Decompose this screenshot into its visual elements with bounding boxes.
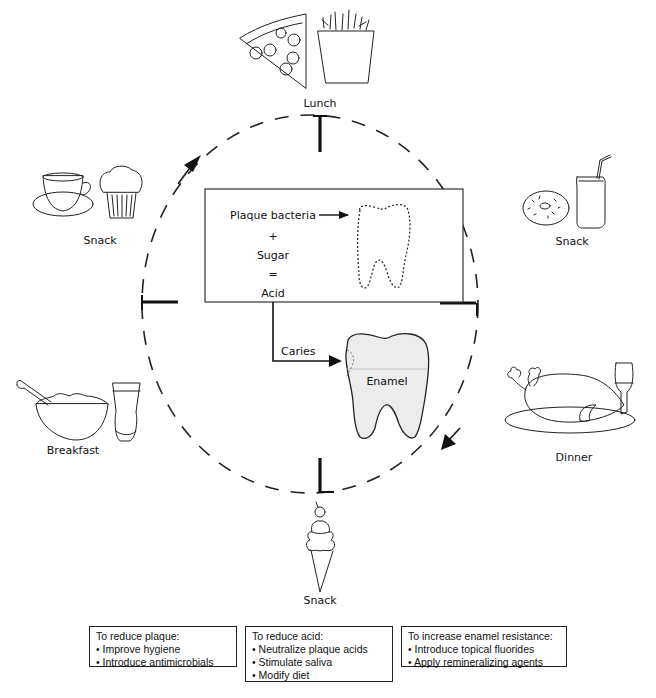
cereal-bowl-icon xyxy=(17,381,108,440)
reduce-plaque-box: To reduce plaque: Improve hygiene Introd… xyxy=(89,626,237,667)
muffin-icon xyxy=(100,166,142,218)
soda-can-icon xyxy=(577,155,611,228)
reduce-acid-box: To reduce acid: Neutralize plaque acids … xyxy=(245,626,393,682)
pizza-slice-icon xyxy=(240,14,306,88)
ice-cream-cone-icon xyxy=(306,502,334,592)
caries-arrowhead xyxy=(329,355,342,367)
wine-glass-icon xyxy=(615,363,633,414)
caries-diagram: Plaque bacteria + Sugar = Acid Caries En… xyxy=(0,0,656,698)
increase-enamel-resistance-box: To increase enamel resistance: Introduce… xyxy=(401,626,567,667)
reduce-plaque-title: To reduce plaque: xyxy=(96,630,230,643)
reduce-plaque-item: Introduce antimicrobials xyxy=(96,656,230,669)
increase-enamel-item: Introduce topical fluorides xyxy=(408,643,560,656)
reduce-plaque-item: Improve hygiene xyxy=(96,643,230,656)
reduce-acid-item: Modify diet xyxy=(252,669,386,682)
increase-enamel-item: Apply remineralizing agents xyxy=(408,656,560,669)
reduce-acid-item: Stimulate saliva xyxy=(252,656,386,669)
tick-bottom xyxy=(320,458,334,493)
meal-label-breakfast: Breakfast xyxy=(47,444,100,457)
tick-left xyxy=(142,295,178,310)
donut-icon xyxy=(523,191,569,225)
coffee-cup-icon xyxy=(33,173,93,216)
meal-label-lunch: Lunch xyxy=(304,97,337,110)
meal-label-snack-evening: Snack xyxy=(303,594,337,607)
meal-label-dinner: Dinner xyxy=(556,451,593,464)
tick-lunch xyxy=(313,115,327,152)
reduce-acid-item: Neutralize plaque acids xyxy=(252,643,386,656)
increase-enamel-title: To increase enamel resistance: xyxy=(408,630,560,643)
meal-label-snack-morning: Snack xyxy=(83,234,117,247)
juice-glass-icon xyxy=(113,383,140,441)
equation-sugar: Sugar xyxy=(257,249,290,262)
french-fries-icon xyxy=(318,10,374,83)
equation-equals: = xyxy=(268,268,277,281)
enamel-label: Enamel xyxy=(366,375,407,388)
meal-label-snack-afternoon: Snack xyxy=(555,235,589,248)
meal-cycle-ring xyxy=(142,115,478,493)
cycle-arrow-lower-right xyxy=(441,428,460,450)
reduce-acid-title: To reduce acid: xyxy=(252,630,386,643)
equation-plus: + xyxy=(268,230,277,243)
plaque-equation-box xyxy=(205,189,463,302)
equation-acid: Acid xyxy=(261,287,284,300)
tick-right xyxy=(440,303,477,316)
cycle-arrow-upper-left xyxy=(178,155,201,184)
caries-label: Caries xyxy=(281,345,316,358)
equation-plaque-bacteria: Plaque bacteria xyxy=(230,209,316,222)
roast-turkey-icon xyxy=(505,367,635,433)
